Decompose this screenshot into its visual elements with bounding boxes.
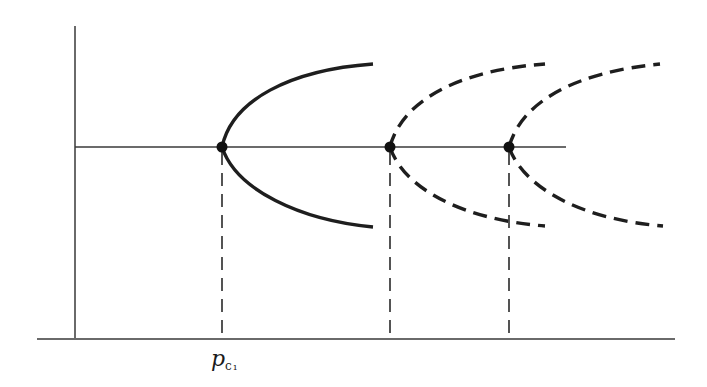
stable-branch-upper [222,64,373,147]
stable-branch-lower [222,147,373,227]
bifurcation-point-3 [504,142,515,153]
unstable-branch-2-upper [390,64,545,147]
label-subscript: c₁ [225,359,239,373]
unstable-branch-2-lower [390,147,545,226]
bifurcation-diagram [0,0,707,387]
bifurcation-point-2 [385,142,396,153]
label-main: p [211,346,225,371]
unstable-branch-3-upper [509,64,660,147]
unstable-branch-3-lower [509,147,663,226]
bifurcation-point-1 [217,142,228,153]
critical-point-label: pc₁ [211,346,239,371]
